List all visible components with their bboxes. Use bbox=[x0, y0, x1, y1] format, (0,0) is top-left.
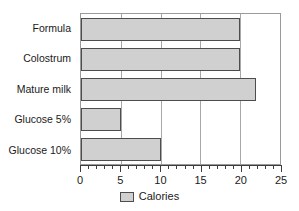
x-tick-minor bbox=[265, 165, 266, 169]
x-tick-minor bbox=[273, 165, 274, 169]
x-tick-minor bbox=[249, 165, 250, 169]
x-tick-minor bbox=[209, 165, 210, 169]
category-label: Glucose 5% bbox=[0, 104, 76, 134]
x-tick-minor bbox=[176, 165, 177, 169]
x-axis-line bbox=[80, 165, 281, 166]
bar bbox=[81, 18, 240, 41]
x-tick-minor bbox=[233, 165, 234, 169]
chart-legend: Calories bbox=[0, 191, 299, 202]
x-tick-minor bbox=[257, 165, 258, 169]
category-label: Formula bbox=[0, 13, 76, 43]
x-tick-minor bbox=[104, 165, 105, 169]
x-tick-minor bbox=[193, 165, 194, 169]
x-tick-label: 0 bbox=[77, 175, 83, 186]
legend-label-calories: Calories bbox=[139, 191, 179, 202]
category-axis: FormulaColostrumMature milkGlucose 5%Glu… bbox=[0, 13, 76, 165]
x-tick-minor bbox=[128, 165, 129, 169]
x-tick-minor bbox=[88, 165, 89, 169]
bar-band bbox=[81, 74, 280, 104]
x-tick-minor bbox=[168, 165, 169, 169]
x-tick-minor bbox=[185, 165, 186, 169]
x-tick-major bbox=[241, 165, 242, 172]
x-tick-minor bbox=[112, 165, 113, 169]
bar bbox=[81, 78, 256, 101]
x-axis bbox=[80, 165, 281, 174]
plot-area bbox=[80, 13, 281, 165]
bar bbox=[81, 48, 240, 71]
x-tick-major bbox=[201, 165, 202, 172]
legend-swatch-calories bbox=[120, 192, 134, 202]
x-tick-major bbox=[120, 165, 121, 172]
bar-band bbox=[81, 134, 280, 164]
x-tick-major bbox=[160, 165, 161, 172]
x-tick-major bbox=[281, 165, 282, 172]
bar-band bbox=[81, 104, 280, 134]
x-tick-labels: 0510152025 bbox=[80, 175, 281, 189]
bars-layer bbox=[81, 14, 280, 164]
x-tick-label: 25 bbox=[275, 175, 287, 186]
bar-band bbox=[81, 14, 280, 44]
x-tick-label: 10 bbox=[154, 175, 166, 186]
category-label: Colostrum bbox=[0, 43, 76, 73]
x-tick-minor bbox=[144, 165, 145, 169]
x-tick-label: 15 bbox=[194, 175, 206, 186]
category-label: Mature milk bbox=[0, 74, 76, 104]
x-tick-minor bbox=[217, 165, 218, 169]
x-tick-major bbox=[80, 165, 81, 172]
x-tick-minor bbox=[136, 165, 137, 169]
x-tick-minor bbox=[96, 165, 97, 169]
bar-band bbox=[81, 44, 280, 74]
x-tick-minor bbox=[225, 165, 226, 169]
bar bbox=[81, 108, 121, 131]
x-tick-minor bbox=[152, 165, 153, 169]
x-tick-label: 20 bbox=[235, 175, 247, 186]
bar-chart: FormulaColostrumMature milkGlucose 5%Glu… bbox=[0, 0, 299, 211]
bar bbox=[81, 138, 161, 161]
x-tick-label: 5 bbox=[117, 175, 123, 186]
category-label: Glucose 10% bbox=[0, 135, 76, 165]
